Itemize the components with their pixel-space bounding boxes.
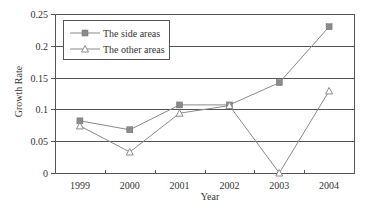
x-axis-label: Year — [190, 191, 230, 202]
square-marker-icon — [127, 127, 133, 133]
x-tick-label: 2000 — [120, 180, 140, 191]
triangle-marker-icon — [126, 149, 133, 156]
triangle-marker-icon — [276, 170, 283, 177]
square-marker-icon — [177, 102, 183, 108]
y-tick-label: 0.25 — [31, 9, 49, 20]
legend-label: The side areas — [103, 28, 160, 39]
y-tick-label: 0 — [43, 168, 48, 179]
triangle-marker-icon — [326, 87, 333, 94]
x-tick-label: 2001 — [170, 180, 190, 191]
x-tick-label: 1999 — [70, 180, 90, 191]
square-marker-icon — [326, 24, 332, 30]
x-tick-label: 2002 — [219, 180, 239, 191]
legend-item-other-areas: The other areas — [70, 42, 165, 56]
plot-area: 00.050.10.150.20.25199920002001200220032… — [0, 0, 371, 218]
legend: The side areas The other areas — [63, 20, 170, 60]
line-chart: 00.050.10.150.20.25199920002001200220032… — [0, 0, 371, 218]
square-marker-icon — [276, 80, 282, 86]
y-tick-label: 0.15 — [31, 73, 49, 84]
y-tick-label: 0.2 — [36, 41, 49, 52]
y-tick-label: 0.05 — [31, 136, 49, 147]
series-line — [80, 91, 329, 173]
legend-item-side-areas: The side areas — [70, 26, 160, 40]
y-axis-label: Growth Rate — [13, 52, 24, 132]
x-tick-label: 2004 — [319, 180, 339, 191]
legend-label: The other areas — [103, 44, 165, 55]
square-marker-icon — [70, 28, 100, 38]
triangle-marker-icon — [70, 44, 100, 54]
x-tick-label: 2003 — [269, 180, 289, 191]
y-tick-label: 0.1 — [36, 104, 49, 115]
